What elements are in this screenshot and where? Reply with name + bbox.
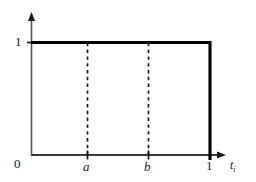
- plot-canvas: [0, 0, 256, 182]
- x-axis-title-subscript: i: [233, 165, 235, 174]
- x-axis-tick-label-b: b: [144, 160, 151, 173]
- x-axis-title: ti: [230, 159, 236, 174]
- y-axis-arrowhead: [28, 12, 35, 21]
- x-axis-arrowhead: [217, 152, 226, 159]
- y-axis-tick-label-one: 1: [15, 35, 22, 48]
- x-axis-tick-label-one: 1: [206, 159, 213, 172]
- origin-label-zero: 0: [14, 157, 21, 170]
- y-axis-group: [28, 12, 35, 155]
- step-function-curve: [31, 43, 210, 161]
- x-axis-tick-label-a: a: [83, 160, 90, 173]
- x-axis-group: [31, 152, 226, 159]
- figure-container: 1 0 a b 1 ti: [0, 0, 256, 182]
